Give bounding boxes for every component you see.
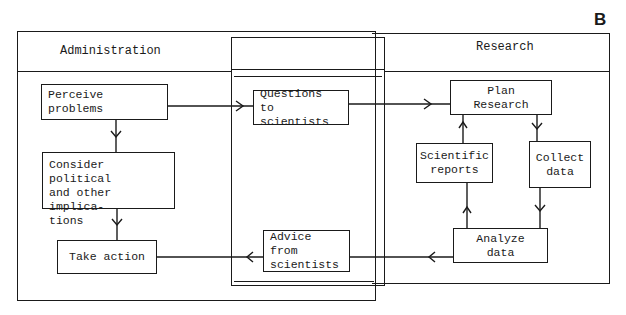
node-collect-data: Collect data [529,141,591,188]
node-consider-implications: Consider political and other implica- ti… [42,152,175,209]
node-take-action: Take action [57,240,157,274]
node-perceive-problems: Perceive problems [41,84,168,120]
node-analyze-data: Analyze data [453,228,548,263]
node-plan-research: Plan Research [450,80,552,115]
node-questions-to-scientists: Questions to scientists [253,90,349,125]
node-scientific-reports: Scientific reports [416,143,493,183]
node-advice-from-scientists: Advice from scientists [263,230,350,272]
